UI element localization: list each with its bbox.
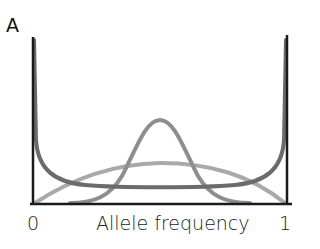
x-tick-0: 0 xyxy=(27,212,39,234)
series-u-curve xyxy=(34,40,286,187)
x-tick-1: 1 xyxy=(279,212,291,234)
x-axis-label: Allele frequency xyxy=(96,212,250,234)
